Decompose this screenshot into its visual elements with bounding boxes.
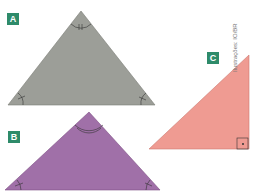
triangle-b bbox=[5, 112, 160, 190]
illustration-credit: Ilustrações: IO/BR bbox=[232, 23, 238, 72]
triangle-a bbox=[8, 11, 155, 105]
label-b-badge: B bbox=[8, 131, 20, 143]
label-a-badge: A bbox=[7, 13, 19, 25]
label-c-badge: C bbox=[207, 52, 219, 64]
figures-canvas bbox=[0, 0, 258, 194]
